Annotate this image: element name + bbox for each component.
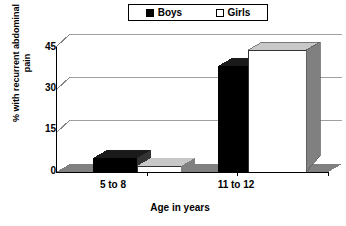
plot-svg <box>56 34 342 180</box>
plot-area <box>56 34 342 180</box>
legend-swatch-girls-icon <box>216 9 224 17</box>
legend-label-boys: Boys <box>158 8 182 18</box>
legend-entry-boys: Boys <box>146 8 182 18</box>
y-tick-label-0: 0 <box>34 166 56 176</box>
left-wall <box>56 34 70 172</box>
bar-girls-11to12-front <box>248 50 306 172</box>
chart-legend: Boys Girls <box>128 4 268 21</box>
y-axis-tick-labels: 45 30 15 0 <box>32 0 56 226</box>
y-tick-label-30: 30 <box>34 83 56 93</box>
y-tick-label-15: 15 <box>34 124 56 134</box>
bar-boys-5to8-front <box>93 158 137 172</box>
legend-label-girls: Girls <box>228 8 251 18</box>
bar-boys-11to12-front <box>218 66 248 172</box>
bar-girls-11to12 <box>248 42 320 172</box>
bar-girls-11to12-side <box>306 42 320 172</box>
legend-entry-girls: Girls <box>216 8 251 18</box>
x-category-label-5to8: 5 to 8 <box>78 180 148 190</box>
legend-swatch-boys-icon <box>146 9 154 17</box>
y-axis-title: % with recurrent abdominal pain <box>11 3 33 123</box>
chart-container: Boys Girls % with recurrent abdominal pa… <box>0 0 346 226</box>
bar-girls-5to8-front <box>137 166 181 172</box>
x-category-label-11to12: 11 to 12 <box>196 180 276 190</box>
x-axis-title: Age in years <box>60 203 300 213</box>
y-tick-label-45: 45 <box>34 42 56 52</box>
